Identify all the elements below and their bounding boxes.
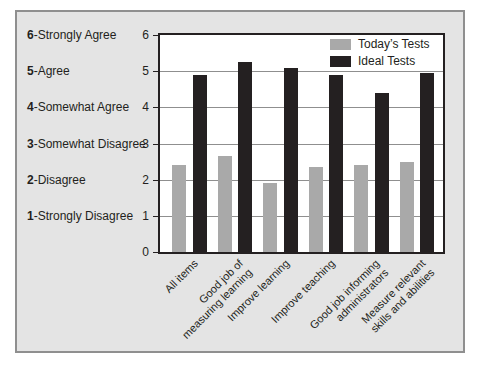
legend-label-todays-tests: Today’s Tests (358, 37, 430, 51)
bar-ideal-tests (193, 75, 207, 252)
bar-ideal-tests (238, 62, 252, 252)
legend-item-ideal-tests: Ideal Tests (330, 54, 430, 68)
y-axis-tick (153, 71, 160, 72)
scale-label: 6-Strongly Agree (27, 28, 116, 42)
legend-item-todays-tests: Today’s Tests (330, 37, 430, 51)
y-axis-tick (153, 35, 160, 36)
y-tick-label: 0 (116, 245, 149, 259)
y-tick-label: 2 (116, 173, 149, 187)
scale-label-number: 4 (27, 100, 34, 114)
y-tick-label: 6 (116, 28, 149, 42)
bar-ideal-tests (420, 73, 434, 252)
scale-label: 4-Somewhat Agree (27, 100, 129, 114)
legend-label-ideal-tests: Ideal Tests (358, 54, 415, 68)
gridline (160, 71, 443, 72)
bar-ideal-tests (329, 75, 343, 252)
scale-label: 1-Strongly Disagree (27, 209, 133, 223)
scale-label-number: 6 (27, 28, 34, 42)
legend-swatch-ideal-tests (330, 56, 351, 67)
bar-todays-tests (309, 167, 323, 252)
bar-todays-tests (263, 183, 277, 252)
scale-label-number: 2 (27, 173, 34, 187)
bar-todays-tests (400, 162, 414, 252)
y-axis-tick (153, 180, 160, 181)
scale-label-number: 1 (27, 209, 34, 223)
y-axis-tick (153, 144, 160, 145)
y-axis-tick (153, 216, 160, 217)
bar-ideal-tests (284, 68, 298, 252)
bar-ideal-tests (375, 93, 389, 252)
scale-label: 5-Agree (27, 64, 70, 78)
scale-label: 2-Disagree (27, 173, 86, 187)
scale-label-number: 3 (27, 137, 34, 151)
legend-swatch-todays-tests (330, 39, 351, 50)
legend: Today’s Tests Ideal Tests (330, 37, 430, 68)
bar-todays-tests (172, 165, 186, 252)
bar-todays-tests (354, 165, 368, 252)
scale-label-number: 5 (27, 64, 34, 78)
y-axis-tick (153, 252, 160, 253)
y-axis-tick (153, 107, 160, 108)
y-tick-label: 5 (116, 64, 149, 78)
bar-todays-tests (218, 156, 232, 252)
scale-label: 3-Somewhat Disagree (27, 137, 146, 151)
figure: Today’s Tests Ideal Tests 01234566-Stron… (0, 0, 479, 367)
